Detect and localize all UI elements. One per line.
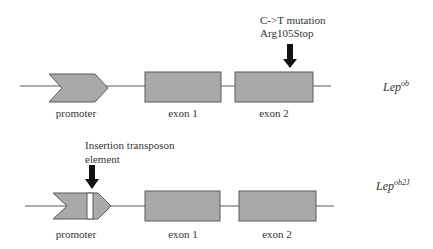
exon2-box [235, 72, 313, 102]
exon2-box [239, 191, 316, 221]
mutation-arrow-icon [283, 44, 297, 68]
exon2-label: exon 2 [262, 228, 292, 240]
exon2-label: exon 2 [259, 107, 289, 119]
annotation-line1: Insertion transposon [85, 139, 175, 151]
insertion-element [87, 193, 93, 219]
gene-label: Lepob2J [375, 178, 410, 193]
promoter-label: promoter [56, 107, 97, 119]
gene-label: Lepob [382, 79, 409, 94]
promoter-shape [49, 74, 108, 102]
promoter-label: promoter [56, 228, 97, 240]
annotation-line2: element [85, 153, 120, 165]
annotation-line2: Arg105Stop [260, 27, 314, 39]
exon1-box [145, 72, 221, 102]
insertion-arrow-icon [85, 165, 99, 189]
exon1-label: exon 1 [168, 107, 198, 119]
gene-diagram: C->T mutation Arg105Stop promoter exon 1… [0, 0, 433, 249]
construct-lep-ob2j: Insertion transposon element promoter ex… [25, 139, 410, 240]
exon1-box [145, 191, 220, 221]
exon1-label: exon 1 [168, 228, 198, 240]
annotation-line1: C->T mutation [260, 14, 326, 26]
construct-lep-ob: C->T mutation Arg105Stop promoter exon 1… [20, 14, 409, 119]
